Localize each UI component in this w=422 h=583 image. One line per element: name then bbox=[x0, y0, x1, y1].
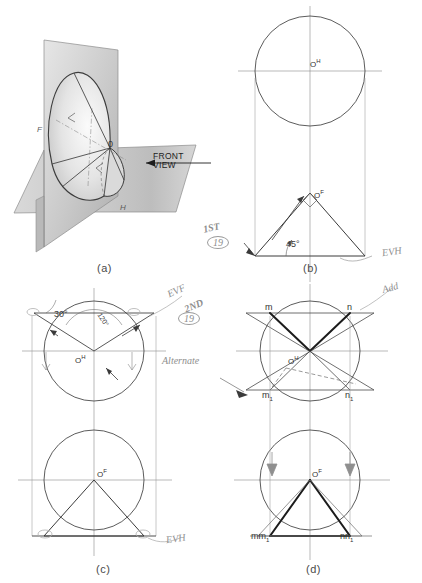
panel-b-caption: (b) bbox=[303, 262, 318, 274]
front-view-line-2: VIEW bbox=[153, 161, 184, 170]
panel-b-note-number-circled: 19 bbox=[207, 237, 229, 248]
panel-a-frontal-plane-label: F bbox=[37, 125, 42, 134]
panel-c-front-center-label: OF bbox=[97, 468, 107, 479]
panel-d-center-label: OH bbox=[288, 355, 299, 366]
panel-a-graphic bbox=[0, 0, 211, 291]
front-view-direction-label: FRONT VIEW bbox=[153, 152, 184, 170]
panel-d-point-n: n bbox=[347, 302, 352, 312]
panel-d-graphic bbox=[200, 280, 422, 583]
panel-a-caption: (a) bbox=[97, 262, 112, 274]
panel-c-top-center-label: OH bbox=[75, 354, 86, 365]
panel-a-horizontal-plane-label: H bbox=[120, 203, 126, 212]
panel-c-note-number-circled: 19 bbox=[178, 313, 200, 324]
panel-b-front-center-label: OF bbox=[314, 189, 324, 200]
panel-d-front-left-label: mm1 bbox=[251, 531, 269, 543]
panel-d-point-m1: m1 bbox=[262, 390, 273, 402]
panel-d-note-alternate: Alternate bbox=[162, 355, 199, 366]
panel-d-front-center-label: OF bbox=[312, 468, 322, 479]
panel-c-caption: (c) bbox=[96, 563, 110, 575]
panel-b-top-center-label: OH bbox=[310, 58, 321, 69]
panel-d-point-n1: n1 bbox=[345, 390, 353, 402]
panel-c-angle-30: 30° bbox=[54, 309, 68, 319]
panel-a-apex-label: 0 bbox=[108, 139, 113, 149]
panel-d-front-right-label: nn1 bbox=[340, 531, 353, 543]
panel-d-point-m: m bbox=[265, 302, 273, 312]
drawing-sheet: F H 0 FRONT VIEW (a) OH OF 45° 1ST 19 EV… bbox=[0, 0, 422, 583]
panel-b-angle-45: 45° bbox=[286, 239, 300, 249]
panel-d-caption: (d) bbox=[306, 563, 321, 575]
